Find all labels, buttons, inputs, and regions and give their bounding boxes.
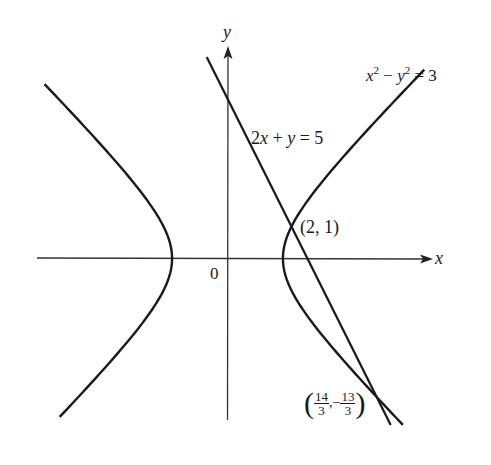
line-rest: = 5 xyxy=(295,128,323,148)
hyp-y: y xyxy=(397,66,405,85)
line-2x-plus-y-eq-5 xyxy=(207,57,391,425)
y-axis xyxy=(228,56,229,420)
line-y: y xyxy=(287,128,295,148)
hyperbola-left-branch xyxy=(45,84,173,417)
line-coef: 2 xyxy=(251,128,260,148)
y-axis-label: y xyxy=(223,22,231,43)
hyp-rest: = 3 xyxy=(410,66,437,85)
comma-minus: ,− xyxy=(329,395,340,410)
origin-label: 0 xyxy=(210,264,219,284)
line-plus: + xyxy=(268,128,287,148)
right-paren: ) xyxy=(355,386,365,419)
left-paren: ( xyxy=(304,386,314,419)
line-equation-label: 2x + y = 5 xyxy=(251,128,323,149)
point-2-1-label: (2, 1) xyxy=(300,217,339,238)
x-axis xyxy=(37,258,424,259)
frac-14-3: 143 xyxy=(314,390,329,417)
hyperbola-right-branch xyxy=(283,70,424,425)
hyp-minus: − xyxy=(379,66,397,85)
frac-13-3: 133 xyxy=(340,390,355,417)
line-x: x xyxy=(260,128,268,148)
x-axis-label: x xyxy=(435,248,443,269)
hyperbola-equation-label: x2 − y2 = 3 xyxy=(366,64,437,86)
hyp-x: x xyxy=(366,66,374,85)
point-14-3-label: (143,−133) xyxy=(304,386,365,420)
